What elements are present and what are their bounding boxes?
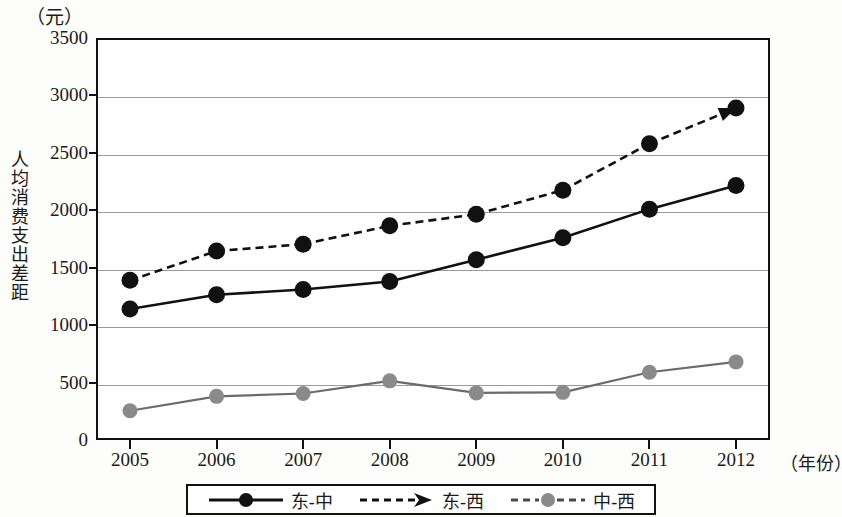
x-axis-tick-label: 2011 xyxy=(609,449,689,471)
x-axis-tick-mark xyxy=(389,440,391,449)
x-axis-tick-label: 2012 xyxy=(696,449,776,471)
gridline xyxy=(98,97,768,98)
x-axis-tick-mark xyxy=(302,440,304,449)
dashed-line-arrow-icon xyxy=(358,491,436,509)
y-axis-tick-label: 3500 xyxy=(28,28,88,47)
y-axis-tick-label: 2000 xyxy=(28,200,88,219)
legend-item-dong-xi[interactable]: 东-西 xyxy=(358,487,484,513)
x-axis-tick-mark xyxy=(216,440,218,449)
x-axis-tick-mark xyxy=(129,440,131,449)
y-axis-title: 人均消费支出差距 xyxy=(4,150,28,302)
y-axis-tick-mark xyxy=(89,94,97,96)
y-axis-tick-label: 2500 xyxy=(28,143,88,162)
y-axis-tick-mark xyxy=(89,267,97,269)
gridline xyxy=(98,327,768,328)
x-axis-tick-label: 2009 xyxy=(436,449,516,471)
legend-item-zhong-xi[interactable]: 中-西 xyxy=(509,487,635,513)
gridline xyxy=(98,212,768,213)
x-axis-tick-mark xyxy=(562,440,564,449)
x-axis-tick-label: 2006 xyxy=(177,449,257,471)
x-axis-unit-label: （年份） xyxy=(780,449,842,475)
y-axis-tick-label: 500 xyxy=(28,373,88,392)
y-axis-tick-label: 1500 xyxy=(28,258,88,277)
gridline xyxy=(98,385,768,386)
chart-canvas: （元） 人均消费支出差距 050010001500200025003000350… xyxy=(0,0,842,517)
legend-label-zhong-xi: 中-西 xyxy=(593,487,635,513)
x-axis-tick-mark xyxy=(735,440,737,449)
y-axis-tick-label: 1000 xyxy=(28,315,88,334)
legend-item-dong-zhong[interactable]: 东-中 xyxy=(207,487,333,513)
plot-area xyxy=(96,38,770,440)
legend-label-dong-xi: 东-西 xyxy=(442,487,484,513)
x-axis-tick-label: 2010 xyxy=(523,449,603,471)
chart-legend: 东-中 东-西 中-西 xyxy=(186,484,656,515)
x-axis-tick-label: 2005 xyxy=(90,449,170,471)
y-axis-unit-label: （元） xyxy=(26,2,83,29)
y-axis-tick-mark xyxy=(89,324,97,326)
legend-label-dong-zhong: 东-中 xyxy=(291,487,333,513)
y-axis-tick-label: 3000 xyxy=(28,85,88,104)
y-axis-tick-mark xyxy=(89,152,97,154)
gridline xyxy=(98,155,768,156)
y-axis-tick-mark xyxy=(89,209,97,211)
solid-line-circle-icon xyxy=(207,491,285,509)
gridline xyxy=(98,270,768,271)
dashed-line-gray-circle-icon xyxy=(509,491,587,509)
y-axis-tick-label: 0 xyxy=(28,430,88,449)
x-axis-tick-mark xyxy=(475,440,477,449)
y-axis-tick-mark xyxy=(89,382,97,384)
x-axis-tick-mark xyxy=(648,440,650,449)
x-axis-tick-label: 2008 xyxy=(350,449,430,471)
x-axis-tick-label: 2007 xyxy=(263,449,343,471)
